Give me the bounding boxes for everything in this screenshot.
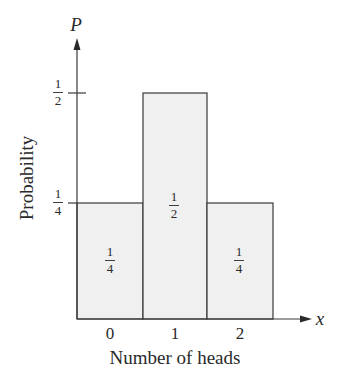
y-tick-quarter-den: 4 [55,203,62,218]
bar-1-label-den: 2 [171,206,178,221]
x-axis-label: Number of heads [110,347,241,368]
y-axis: P 1 2 1 4 Probability [16,14,86,319]
bar-1-label-num: 1 [171,189,178,204]
histogram-chart: P 1 2 1 4 Probability x 0 1 2 Number of … [0,0,337,373]
x-axis-variable: x [315,308,325,329]
x-tick-0: 0 [106,324,115,343]
bar-0-label-den: 4 [107,261,114,276]
x-tick-1: 1 [171,324,180,343]
y-tick-half-den: 2 [55,93,62,108]
y-axis-arrow-icon [74,38,81,50]
y-tick-half-num: 1 [55,76,62,91]
y-axis-label: Probability [16,135,37,220]
y-axis-variable: P [69,14,82,35]
bar-0-label-num: 1 [107,244,114,259]
bar-2-label-den: 4 [236,261,243,276]
x-axis-arrow-icon [300,316,312,323]
y-tick-quarter-num: 1 [55,186,62,201]
x-tick-2: 2 [236,324,245,343]
bar-2-label-num: 1 [236,244,243,259]
